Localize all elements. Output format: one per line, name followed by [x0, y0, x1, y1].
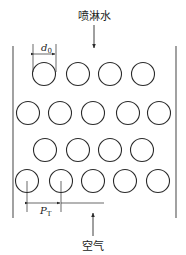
tube-circle [99, 63, 122, 86]
tube-circle [114, 170, 137, 193]
tube-circle [33, 63, 56, 86]
air-label: 空气 [82, 239, 104, 253]
svg-text:PT: PT [39, 205, 52, 218]
tube-circle [34, 139, 57, 162]
tube-circle [117, 102, 140, 125]
tube-circle [49, 102, 72, 125]
pitch-dimension: PT [27, 181, 104, 218]
tube-circle [82, 170, 105, 193]
tube-circle [148, 102, 171, 125]
tube-circle [82, 102, 105, 125]
diameter-dimension: d0 [33, 42, 56, 72]
tube-circle [147, 170, 170, 193]
tube-circle [99, 139, 122, 162]
tube-circle [131, 139, 154, 162]
tube-circle [67, 139, 90, 162]
tube-circle [17, 102, 40, 125]
tube-bank-diagram: 喷淋水 d0 PT 空气 [0, 0, 186, 255]
svg-text:d0: d0 [41, 42, 52, 55]
tube-circle [132, 63, 155, 86]
tube-bank [16, 63, 171, 193]
spray-water-label: 喷淋水 [78, 10, 111, 23]
tube-circle [67, 63, 90, 86]
